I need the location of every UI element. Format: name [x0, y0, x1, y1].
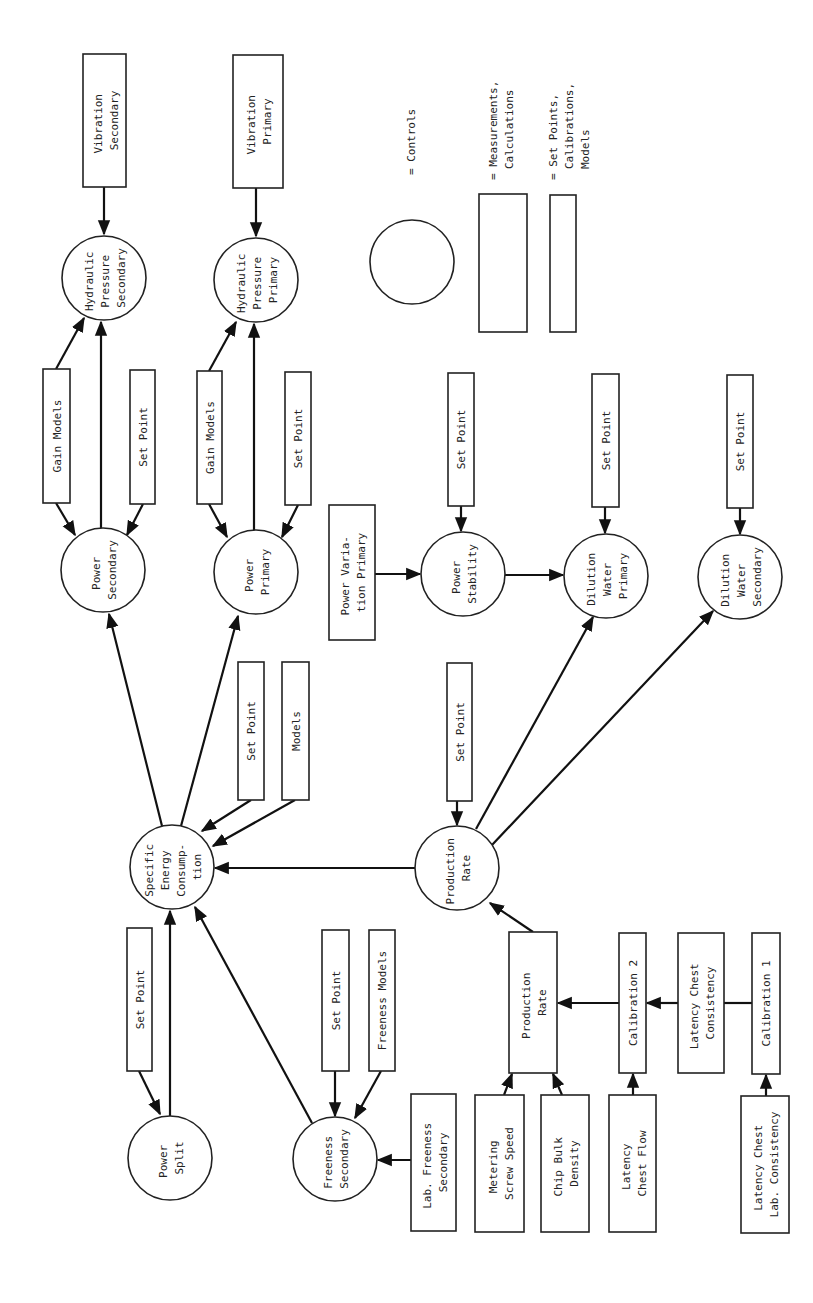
- node-gain-models-primary[interactable]: Gain Models: [197, 371, 222, 504]
- node-metering-screw-speed[interactable]: Metering Screw Speed: [475, 1095, 524, 1232]
- node-label: Primary: [261, 98, 274, 145]
- node-power-secondary[interactable]: Power Secondary: [61, 528, 145, 612]
- node-set-point-freeness[interactable]: Set Point: [322, 930, 349, 1071]
- node-label: Water: [735, 563, 748, 596]
- node-hydraulic-pressure-secondary[interactable]: Hydraulic Pressure Secondary: [62, 236, 146, 320]
- svg-text:= Measurements, Calcul: = Measurements, Calculations: [487, 74, 516, 180]
- node-label: Set Point: [600, 411, 613, 471]
- node-label: Latency Chest: [752, 1125, 765, 1211]
- node-label: Hydraulic: [83, 252, 96, 312]
- node-specific-energy-consumption[interactable]: Specific Energy Consump- tion: [130, 825, 214, 909]
- node-label: Set Point: [734, 412, 747, 472]
- node-set-point-production-rate[interactable]: Set Point: [447, 663, 472, 801]
- node-label: Split: [173, 1141, 186, 1174]
- node-set-point-power-split[interactable]: Set Point: [127, 928, 152, 1071]
- node-latency-chest-consistency[interactable]: Latency Chest Consistency: [678, 933, 724, 1073]
- node-dilution-water-primary[interactable]: Dilution Water Primary: [564, 534, 648, 618]
- node-label: Dilution: [585, 553, 598, 606]
- legend-label: = Set Points,: [547, 94, 560, 180]
- svg-text:Gain Models: Gain Models: [204, 401, 217, 474]
- node-label: Density: [568, 1140, 581, 1187]
- node-latency-chest-flow[interactable]: Latency Chest Flow: [609, 1095, 656, 1232]
- node-vibration-primary[interactable]: Vibration Primary: [233, 55, 283, 188]
- node-set-point-dilution-primary[interactable]: Set Point: [592, 374, 619, 507]
- node-set-point-dilution-secondary[interactable]: Set Point: [727, 375, 753, 508]
- legend-setpoints: = Set Points, Calibrations, Models: [547, 76, 592, 332]
- node-gain-models-secondary[interactable]: Gain Models: [43, 369, 70, 503]
- node-label: Consistency: [704, 966, 717, 1039]
- node-label: Power: [450, 560, 463, 593]
- node-production-rate-measurement[interactable]: Production Rate: [509, 932, 557, 1073]
- svg-text:Models: Models: [290, 711, 303, 751]
- node-label: Primary: [259, 548, 272, 595]
- legend-measurement-rect-icon: [479, 194, 527, 332]
- node-power-stability[interactable]: Power Stability: [421, 532, 505, 616]
- edges: [56, 187, 766, 1160]
- node-label: Chest Flow: [636, 1130, 649, 1197]
- node-label: Lab. Freeness: [421, 1123, 434, 1209]
- node-label: Set Point: [330, 971, 343, 1031]
- svg-text:Calibration 1: Calibration 1: [760, 960, 773, 1046]
- node-calibration-1[interactable]: Calibration 1: [752, 933, 780, 1074]
- node-label: Chip Bulk: [552, 1137, 565, 1197]
- node-calibration-2[interactable]: Calibration 2: [619, 933, 646, 1073]
- node-label: Production: [520, 973, 533, 1039]
- node-set-point-power-stability[interactable]: Set Point: [448, 373, 474, 506]
- svg-text:Set Point: Set Point: [734, 412, 747, 472]
- node-label: Set Point: [134, 970, 147, 1030]
- node-production-rate-control[interactable]: Production Rate: [415, 826, 499, 910]
- svg-text:Set Point: Set Point: [134, 970, 147, 1030]
- node-label: Specific: [143, 844, 156, 897]
- node-label: Dilution: [719, 554, 732, 607]
- node-label: tion: [191, 854, 204, 881]
- svg-text:Set Point: Set Point: [600, 411, 613, 471]
- node-label: Lab. Consistency: [768, 1111, 781, 1217]
- node-vibration-secondary[interactable]: Vibration Secondary: [83, 54, 126, 187]
- svg-text:Calibration 2: Calibration 2: [627, 960, 640, 1046]
- node-label: Set Point: [455, 410, 468, 470]
- node-label: tion Primary: [355, 532, 368, 612]
- node-label: Set Point: [137, 407, 150, 467]
- node-label: Stability: [466, 544, 479, 604]
- node-label: Metering: [487, 1140, 500, 1193]
- node-freeness-secondary[interactable]: Freeness Secondary: [293, 1117, 377, 1201]
- svg-text:Set Point: Set Point: [330, 971, 343, 1031]
- legend-label: = Controls: [405, 109, 418, 175]
- svg-text:Hydraulic Pressure: Hydraulic Pressure Secondary: [83, 245, 128, 311]
- node-label: Latency: [620, 1143, 633, 1190]
- svg-text:Hydraulic Pressure: Hydraulic Pressure Primary: [235, 247, 280, 313]
- node-dilution-water-secondary[interactable]: Dilution Water Secondary: [698, 535, 782, 619]
- node-hydraulic-pressure-primary[interactable]: Hydraulic Pressure Primary: [214, 238, 298, 322]
- node-label: Models: [290, 711, 303, 751]
- svg-text:Set Point: Set Point: [245, 701, 258, 761]
- node-power-primary[interactable]: Power Primary: [214, 530, 298, 614]
- node-label: Power: [157, 1144, 170, 1177]
- control-diagram: Vibration Secondary Vibration Primary Hy…: [0, 0, 813, 1303]
- node-set-point-power-secondary[interactable]: Set Point: [130, 370, 155, 504]
- node-label: Power Varia-: [339, 536, 352, 615]
- node-set-point-specific-energy[interactable]: Set Point: [238, 662, 264, 800]
- node-latency-chest-lab-consistency[interactable]: Latency Chest Lab. Consistency: [741, 1096, 789, 1233]
- node-label: Rate: [536, 989, 549, 1016]
- node-lab-freeness-secondary[interactable]: Lab. Freeness Secondary: [411, 1094, 456, 1231]
- node-freeness-models[interactable]: Freeness Models: [369, 930, 395, 1071]
- node-label: Latency Chest: [688, 963, 701, 1049]
- node-label: Secondary: [115, 248, 128, 308]
- node-label: Secondary: [437, 1132, 450, 1192]
- node-label: Vibration: [92, 94, 105, 154]
- node-label: Production: [444, 838, 457, 904]
- node-set-point-power-primary[interactable]: Set Point: [285, 372, 311, 505]
- legend-setpoint-rect-icon: [550, 195, 576, 332]
- node-chip-bulk-density[interactable]: Chip Bulk Density: [541, 1095, 589, 1232]
- node-label: Secondary: [338, 1129, 351, 1189]
- legend-measurements: = Measurements, Calculations: [479, 74, 527, 332]
- node-label: Secondary: [751, 547, 764, 607]
- svg-text:= Controls: = Controls: [405, 109, 418, 175]
- node-models-specific-energy[interactable]: Models: [282, 662, 309, 800]
- node-label: Pressure: [251, 257, 264, 310]
- node-label: Set Point: [454, 702, 467, 762]
- node-power-variation-primary[interactable]: Power Varia- tion Primary: [329, 505, 375, 640]
- node-power-split[interactable]: Power Split: [128, 1116, 212, 1200]
- legend-controls: = Controls: [370, 109, 454, 304]
- node-label: Gain Models: [204, 401, 217, 474]
